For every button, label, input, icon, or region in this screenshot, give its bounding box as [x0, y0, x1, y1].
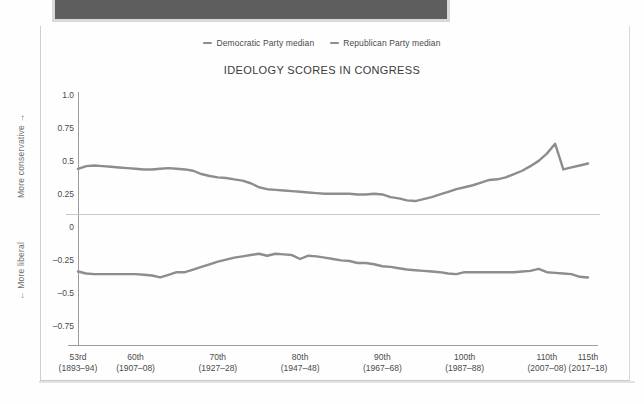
- y-tick-label: 0.5: [34, 156, 74, 166]
- y-tick-label: 0: [34, 222, 74, 232]
- x-tick-years: (1927–28): [198, 363, 237, 374]
- x-tick-label: 53rd(1893–94): [59, 352, 98, 374]
- x-tick-congress: 53rd: [69, 352, 86, 362]
- legend-item-democratic: Democratic Party median: [203, 38, 314, 48]
- page-canvas: Democratic Party median Republican Party…: [0, 0, 644, 404]
- legend-item-republican: Republican Party median: [330, 38, 440, 48]
- y-axis-caption-liberal: ← More liberal: [16, 242, 26, 300]
- legend-dash-democratic-icon: [203, 42, 212, 44]
- y-tick-label: 1.0: [34, 90, 74, 100]
- x-tick-congress: 115th: [578, 352, 599, 362]
- y-tick-label: –0.25: [34, 255, 74, 265]
- x-tick-years: (1907–08): [116, 363, 155, 374]
- y-axis-caption-conservative: More conservative →: [16, 114, 26, 198]
- legend-dash-republican-icon: [330, 42, 339, 44]
- chart-svg: [78, 95, 588, 342]
- x-tick-congress: 110th: [537, 352, 558, 362]
- x-tick-label: 70th(1927–28): [198, 352, 237, 374]
- x-tick-label: 110th(2007–08): [527, 352, 566, 374]
- x-tick-years: (1947–48): [281, 363, 320, 374]
- line-democratic-party-median: [78, 254, 588, 278]
- x-tick-congress: 90th: [374, 352, 391, 362]
- line-republican-party-median: [78, 144, 588, 201]
- chart-legend: Democratic Party median Republican Party…: [0, 38, 644, 48]
- x-tick-congress: 80th: [292, 352, 309, 362]
- x-tick-label: 90th(1967–68): [363, 352, 402, 374]
- x-tick-congress: 70th: [210, 352, 227, 362]
- x-tick-congress: 60th: [127, 352, 144, 362]
- window-title-bar: [52, 0, 450, 22]
- x-tick-label: 80th(1947–48): [281, 352, 320, 374]
- x-tick-years: (1893–94): [59, 363, 98, 374]
- y-tick-label: 0.75: [34, 123, 74, 133]
- x-tick-label: 60th(1907–08): [116, 352, 155, 374]
- y-tick-label: –0.5: [34, 288, 74, 298]
- x-tick-label: 115th(2017–18): [569, 352, 608, 374]
- chart-title: IDEOLOGY SCORES IN CONGRESS: [0, 64, 644, 76]
- y-tick-label: –0.75: [34, 321, 74, 331]
- x-tick-label: 100th(1987–88): [445, 352, 484, 374]
- x-tick-years: (2017–18): [569, 363, 608, 374]
- y-tick-label: 0.25: [34, 189, 74, 199]
- x-tick-years: (1987–88): [445, 363, 484, 374]
- x-tick-congress: 100th: [454, 352, 475, 362]
- legend-label-democratic: Democratic Party median: [216, 38, 314, 48]
- y-axis-tick-labels: 1.00.750.50.250–0.25–0.5–0.75: [28, 0, 74, 404]
- x-tick-years: (1967–68): [363, 363, 402, 374]
- plot-area: [78, 95, 588, 342]
- x-tick-years: (2007–08): [527, 363, 566, 374]
- legend-label-republican: Republican Party median: [343, 38, 440, 48]
- x-axis-tick-labels: 53rd(1893–94)60th(1907–08)70th(1927–28)8…: [0, 352, 644, 384]
- x-axis-line: [68, 345, 598, 346]
